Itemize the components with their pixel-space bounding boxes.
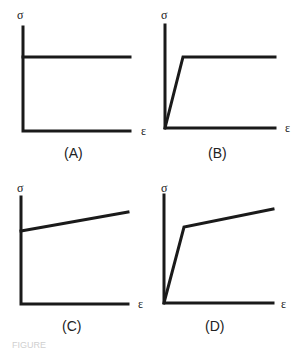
sigma-label: σ [161,181,168,195]
epsilon-label: ε [281,297,286,311]
stress-strain-figure: σ ε (A) σ ε (B) σ ε (C) σ ε (D) FIGURE [0,0,301,350]
sigma-label: σ [17,8,24,22]
panel-b: σ ε (B) [161,8,290,161]
sigma-label: σ [161,8,168,22]
axes [165,25,275,128]
epsilon-label: ε [285,121,290,135]
panel-label: (D) [205,318,224,334]
curve-c [21,212,128,231]
curve-b [165,57,275,128]
axes [23,27,130,131]
panel-label: (A) [64,145,83,161]
panel-label: (C) [62,318,81,334]
panel-d: σ ε (D) [161,181,286,334]
curve-d [164,209,273,303]
figure-caption: FIGURE [12,340,46,350]
panel-a: σ ε (A) [17,8,146,161]
panel-c: σ ε (C) [17,181,143,334]
sigma-label: σ [17,181,24,195]
epsilon-label: ε [138,297,143,311]
axes [21,197,128,304]
epsilon-label: ε [141,124,146,138]
panel-label: (B) [208,145,227,161]
